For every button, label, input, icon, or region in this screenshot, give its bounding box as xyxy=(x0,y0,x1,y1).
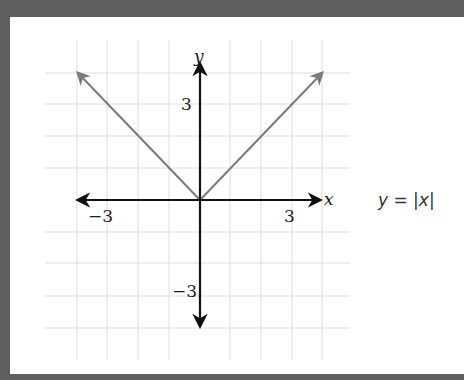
y-tick-3: 3 xyxy=(181,94,192,114)
axes xyxy=(78,64,320,326)
equation-label: y = |x| xyxy=(377,190,435,210)
y-axis-label: y xyxy=(193,46,204,66)
y-tick-neg3: −3 xyxy=(172,281,197,301)
x-axis-label: x xyxy=(324,189,334,209)
x-tick-3: 3 xyxy=(284,206,295,226)
absolute-value-graph: y x 3 −3 −3 3 y = |x| xyxy=(0,0,464,380)
x-tick-neg3: −3 xyxy=(88,206,113,226)
